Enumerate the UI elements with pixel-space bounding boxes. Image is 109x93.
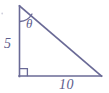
angle-theta-label: θ (26, 17, 32, 30)
right-angle-square-icon (20, 69, 28, 77)
horizontal-leg-label: 10 (59, 78, 74, 92)
geometry-figure: 5 θ 10 (0, 0, 109, 93)
scan-artifact-mark (1, 13, 3, 15)
vertical-leg-label: 5 (4, 37, 11, 51)
triangle-svg (0, 0, 109, 93)
